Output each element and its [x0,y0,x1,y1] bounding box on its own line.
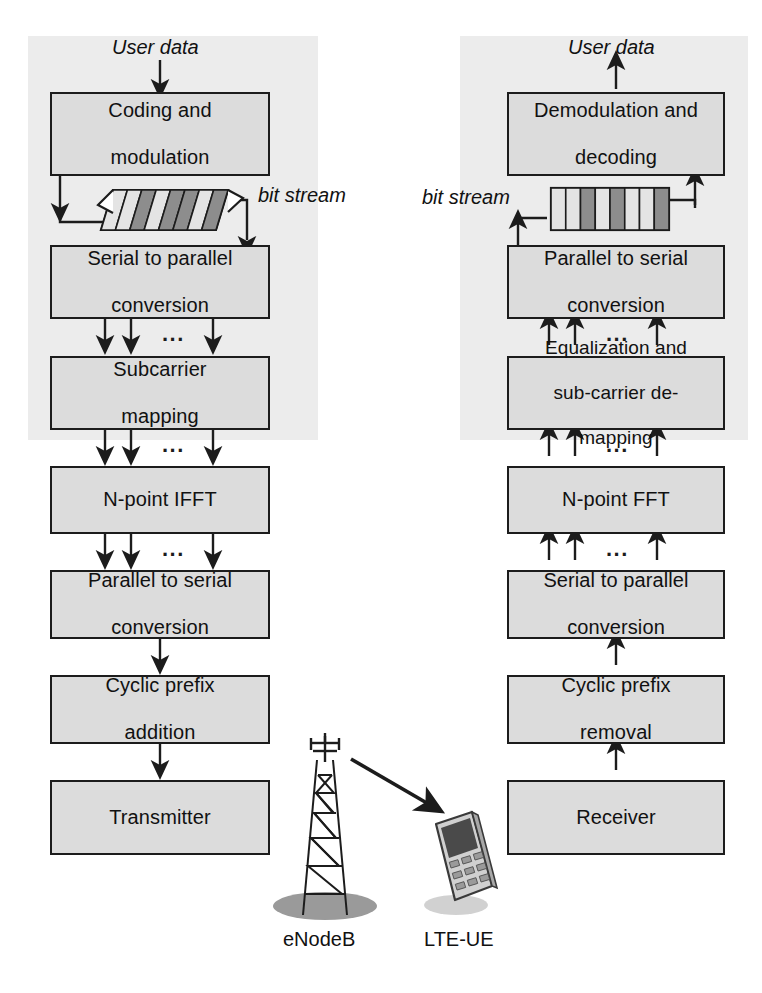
transmitter-bitstream [98,190,243,230]
rx-s2p-line1: Serial to parallel [537,569,694,593]
rx-eq-line1: Equalization and [539,337,693,359]
lte-ue-label: LTE-UE [424,928,494,951]
tx-ifft-line1: N-point IFFT [97,488,222,512]
tx-s2p-line1: Serial to parallel [81,247,238,271]
rx-receiver-line1: Receiver [570,806,662,830]
rx-s2p-line2: conversion [537,616,694,640]
rx-fft-line1: N-point FFT [556,488,676,512]
rx-bitstream-bar [581,188,596,230]
tx-transmitter-line1: Transmitter [103,806,216,830]
elbow-coding-to-bitstream [60,218,108,222]
tx-dots-2: ... [162,434,185,456]
rx-bitstream-bar [654,188,669,230]
rx-bitstream-bar [566,188,581,230]
tx-submap-line2: mapping [107,405,212,429]
rx-dots-2: ... [606,434,629,456]
rx-cprem-line1: Cyclic prefix [555,674,676,698]
tx-block-transmitter[interactable]: Transmitter [50,780,270,855]
diagram-canvas: User data Coding and modulation bit stre… [0,0,762,993]
transmitter-bitstream-label: bit stream [258,184,346,207]
tx-p2s-line2: conversion [82,616,238,640]
enodeb-label: eNodeB [283,928,355,951]
receiver-bitstream-label: bit stream [422,186,510,209]
receiver-output-label: User data [568,36,655,59]
tx-cpadd-line1: Cyclic prefix [99,674,220,698]
tx-block-cyclic-prefix-addition[interactable]: Cyclic prefix addition [50,675,270,744]
elbow-p2s-right-to-bitstream [518,218,547,222]
arrow-radio-link [351,759,432,806]
rx-block-equalization-and-sub-carrier-de-mapping[interactable]: Equalization and sub-carrier de- mapping [507,356,725,430]
rx-block-demodulation-and-decoding[interactable]: Demodulation and decoding [507,92,725,176]
tx-coding-line2: modulation [102,146,217,170]
rx-bitstream-bar [610,188,625,230]
tx-block-subcarrier-mapping[interactable]: Subcarrier mapping [50,356,270,430]
elbow-bitstream-right-to-demod [668,200,695,208]
tx-s2p-line2: conversion [81,294,238,318]
tx-block-parallel-to-serial-conversion[interactable]: Parallel to serial conversion [50,570,270,639]
rx-cprem-line2: removal [555,721,676,745]
rx-bitstream-bar [595,188,610,230]
rx-block-receiver[interactable]: Receiver [507,780,725,855]
tx-coding-line1: Coding and [102,99,217,123]
tx-block-coding-and-modulation[interactable]: Coding and modulation [50,92,270,176]
enodeb-tower-icon [273,733,377,920]
rx-p2s-line1: Parallel to serial [538,247,694,271]
rx-block-cyclic-prefix-removal[interactable]: Cyclic prefix removal [507,675,725,744]
rx-bitstream-bar [640,188,655,230]
tx-p2s-line1: Parallel to serial [82,569,238,593]
rx-bitstream-bar [551,188,566,230]
receiver-bitstream [551,188,669,230]
tx-block-serial-to-parallel-conversion[interactable]: Serial to parallel conversion [50,245,270,319]
transmitter-input-label: User data [112,36,199,59]
rx-p2s-line2: conversion [538,294,694,318]
rx-demod-line1: Demodulation and [528,99,704,123]
lte-ue-phone-icon [424,812,497,915]
rx-block-serial-to-parallel-conversion[interactable]: Serial to parallel conversion [507,570,725,639]
tx-dots-3: ... [162,538,185,560]
rx-bitstream-bar [625,188,640,230]
tx-dots-1: ... [162,323,185,345]
rx-block-parallel-to-serial-conversion[interactable]: Parallel to serial conversion [507,245,725,319]
rx-block-n-point-fft[interactable]: N-point FFT [507,466,725,534]
tx-cpadd-line2: addition [99,721,220,745]
rx-dots-3: ... [606,538,629,560]
rx-eq-line2: sub-carrier de- [539,382,693,404]
rx-demod-line2: decoding [528,146,704,170]
tx-submap-line1: Subcarrier [107,358,212,382]
tx-block-n-point-ifft[interactable]: N-point IFFT [50,466,270,534]
